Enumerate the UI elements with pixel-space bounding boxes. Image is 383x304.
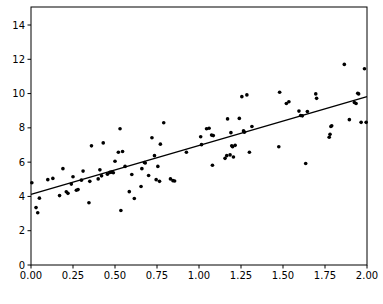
x-tick-label: 0.00 (20, 270, 42, 281)
data-point (348, 118, 352, 122)
data-point (357, 92, 361, 96)
axes-area: 0.000.250.500.751.001.251.501.752.00 024… (12, 7, 378, 281)
data-point (96, 177, 100, 181)
y-tick-label: 0 (19, 260, 25, 271)
data-point (38, 196, 42, 200)
data-point (232, 155, 236, 159)
data-point (162, 121, 166, 125)
data-point (118, 127, 122, 131)
data-point (233, 144, 237, 148)
data-point (228, 153, 232, 157)
x-tick-label: 1.75 (314, 270, 336, 281)
data-point (330, 124, 334, 128)
x-tick-label: 0.25 (62, 270, 84, 281)
data-point (238, 117, 242, 121)
data-point (363, 67, 367, 71)
data-point (61, 167, 65, 171)
data-point (88, 180, 92, 184)
y-tick-label: 2 (19, 225, 25, 236)
x-tick-label: 1.25 (230, 270, 252, 281)
data-point (156, 165, 160, 169)
data-point (158, 180, 162, 184)
data-point (248, 150, 252, 154)
data-point (36, 211, 40, 215)
scatter-plot-canvas: 0.000.250.500.751.001.251.501.752.00 024… (0, 0, 383, 304)
data-point (34, 206, 38, 210)
data-point (173, 179, 177, 183)
data-point (199, 135, 203, 139)
data-point (250, 125, 254, 129)
data-point (87, 201, 91, 205)
data-point (154, 178, 158, 182)
y-tick-labels-group: 02468101214 (12, 20, 25, 271)
data-point (90, 144, 94, 148)
y-tick-label: 4 (19, 191, 25, 202)
data-point (112, 171, 116, 175)
data-point (66, 192, 70, 196)
x-tick-label: 1.50 (272, 270, 294, 281)
data-point (133, 197, 137, 201)
data-point (147, 174, 151, 178)
data-point (354, 102, 358, 106)
data-point (211, 163, 215, 167)
data-point (359, 121, 363, 125)
data-point (328, 133, 332, 137)
data-point (314, 92, 318, 96)
data-point (277, 145, 281, 149)
data-point (226, 117, 230, 121)
x-tick-label: 0.50 (104, 270, 126, 281)
data-point (343, 63, 347, 67)
data-point (51, 177, 55, 181)
data-point (98, 168, 102, 172)
data-point (46, 178, 50, 182)
data-point (304, 162, 308, 166)
y-tick-label: 6 (19, 157, 25, 168)
data-point (119, 209, 123, 213)
y-tick-label: 10 (12, 88, 25, 99)
data-point (207, 126, 211, 130)
data-point (71, 175, 75, 179)
data-point (159, 142, 163, 146)
data-point (225, 154, 229, 158)
data-point (306, 110, 310, 114)
data-point (278, 90, 282, 94)
x-tick-label: 0.75 (146, 270, 168, 281)
data-point (127, 190, 131, 194)
y-tick-label: 14 (12, 20, 25, 31)
data-point (297, 109, 301, 113)
data-point (153, 154, 157, 158)
x-tick-label: 2.00 (356, 270, 378, 281)
data-point (240, 95, 244, 99)
data-point (121, 150, 125, 154)
matplotlib-figure: 0.000.250.500.751.001.251.501.752.00 024… (0, 0, 383, 304)
data-point (315, 97, 319, 101)
data-point (139, 185, 143, 189)
data-point (229, 131, 233, 135)
x-tick-labels-group: 0.000.250.500.751.001.251.501.752.00 (20, 270, 378, 281)
data-point (117, 150, 121, 154)
data-point (287, 100, 291, 104)
data-point (211, 134, 215, 138)
data-point (101, 141, 105, 145)
y-tick-label: 12 (12, 54, 25, 65)
data-point (130, 173, 134, 177)
data-point (113, 159, 117, 163)
data-point (76, 188, 80, 192)
data-point (81, 169, 85, 173)
y-tick-label: 8 (19, 122, 25, 133)
data-point (185, 150, 189, 154)
data-point (150, 136, 154, 140)
data-point (245, 93, 249, 97)
data-point (140, 167, 144, 171)
plot-background (31, 7, 367, 265)
data-point (58, 194, 62, 198)
x-tick-label: 1.00 (188, 270, 210, 281)
